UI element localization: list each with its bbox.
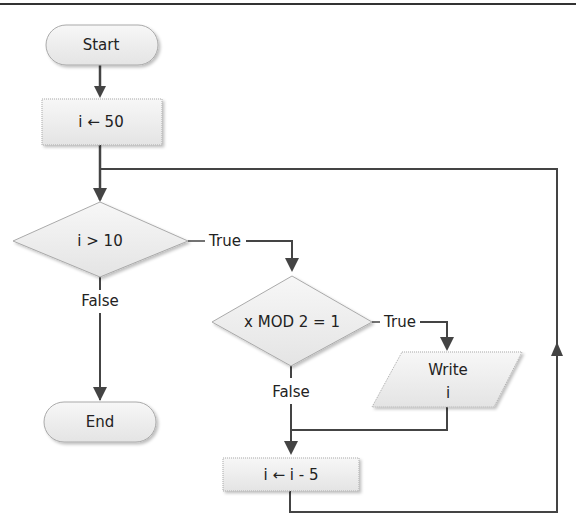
connectors (93, 65, 563, 512)
decision-x-mod-2[interactable]: x MOD 2 = 1 (212, 276, 372, 366)
init-process-node[interactable]: i ← 50 (42, 99, 162, 145)
write-label-line2: i (446, 384, 450, 402)
start-node[interactable]: Start (46, 25, 158, 65)
flowchart-canvas: Start i ← 50 i > 10 True False x MOD 2 =… (0, 0, 576, 531)
cond2-true-label: True (383, 313, 416, 331)
write-label-line1: Write (428, 361, 468, 379)
decrement-label: i ← i - 5 (264, 466, 319, 484)
cond1-true-label: True (208, 232, 241, 250)
write-io-node[interactable]: Write i (372, 352, 522, 407)
end-label: End (86, 413, 115, 431)
end-node[interactable]: End (44, 402, 156, 442)
cond1-false-label: False (81, 292, 119, 310)
cond1-label: i > 10 (77, 232, 122, 250)
decrement-process-node[interactable]: i ← i - 5 (223, 458, 359, 491)
cond2-false-label: False (272, 383, 310, 401)
start-label: Start (83, 36, 120, 54)
decision-i-gt-10[interactable]: i > 10 (13, 202, 188, 277)
cond2-label: x MOD 2 = 1 (244, 313, 340, 331)
init-label: i ← 50 (78, 113, 123, 131)
